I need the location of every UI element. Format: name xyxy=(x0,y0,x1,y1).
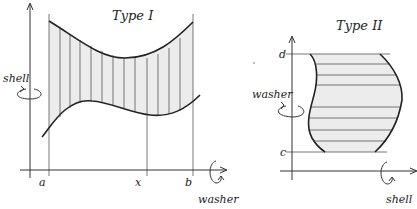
diagram-canvas: Type I a x b shell washer xyxy=(0,0,417,209)
type1-shell-label: shell xyxy=(3,72,30,85)
type1-washer-label: washer xyxy=(198,193,239,206)
type1-tick-x: x xyxy=(135,176,142,189)
stray-dot xyxy=(253,62,255,64)
type2-diagram: Type II d c washer shell xyxy=(252,18,416,206)
type2-tick-d: d xyxy=(279,48,286,61)
type1-shell-rotation-arrowhead-icon xyxy=(20,86,24,92)
type2-washer-label: washer xyxy=(252,88,293,101)
type2-tick-c: c xyxy=(280,146,286,159)
type1-shell-rotation-icon xyxy=(17,89,41,99)
type1-region xyxy=(49,21,193,128)
type2-shell-rotation-icon xyxy=(381,162,392,184)
type2-shell-label: shell xyxy=(386,193,413,206)
type2-title: Type II xyxy=(336,18,383,33)
type2-washer-rotation-arrowhead-icon xyxy=(281,102,284,109)
type1-tick-b: b xyxy=(185,176,192,189)
type1-tick-a: a xyxy=(39,176,46,189)
type1-diagram: Type I a x b shell washer xyxy=(3,4,239,206)
type1-washer-rotation-icon xyxy=(210,161,221,183)
type1-title: Type I xyxy=(112,8,154,23)
